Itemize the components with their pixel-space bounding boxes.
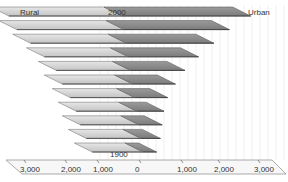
- bar-urban: [106, 21, 229, 30]
- x-tick-label: 0: [135, 165, 140, 174]
- x-tick-label: 2,000: [61, 165, 82, 174]
- x-tick-label: 3,000: [20, 165, 41, 174]
- x-tick-label: 1,000: [93, 165, 114, 174]
- population-butterfly-chart: 3,0002,0001,00001,0002,0003,000 Rural Ur…: [0, 0, 288, 182]
- bar-urban: [108, 34, 214, 43]
- x-tick-label: 1,000: [177, 165, 198, 174]
- x-tick-label: 3,000: [254, 165, 275, 174]
- year-label-bottom: 1900: [110, 150, 128, 159]
- bar-rural: [0, 7, 122, 16]
- bar-urban: [104, 7, 251, 16]
- year-label-top: 2000: [108, 8, 126, 17]
- bar-rural: [0, 21, 124, 30]
- x-tick-label: 2,000: [214, 165, 235, 174]
- axis-floor: [6, 160, 286, 174]
- bar-rural: [13, 34, 127, 43]
- legend-label-rural: Rural: [20, 8, 39, 17]
- x-axis: 3,0002,0001,00001,0002,0003,000: [6, 160, 286, 174]
- legend-label-urban: Urban: [248, 8, 270, 17]
